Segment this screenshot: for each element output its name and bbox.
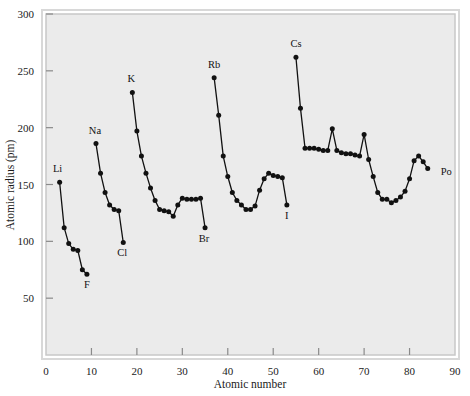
data-point <box>389 200 394 205</box>
data-point <box>180 196 185 201</box>
y-tick-label: 50 <box>23 292 35 304</box>
data-point <box>225 174 230 179</box>
data-point <box>330 126 335 131</box>
data-point <box>62 225 67 230</box>
data-point <box>157 207 162 212</box>
x-tick-label: 70 <box>359 365 371 377</box>
x-tick-label: 30 <box>177 365 189 377</box>
data-point <box>234 198 239 203</box>
data-point <box>171 214 176 219</box>
data-point <box>257 188 262 193</box>
data-point <box>425 166 430 171</box>
chart-canvas: 010203040506070809050100150200250300 LiF… <box>0 0 470 396</box>
x-tick-label: 0 <box>43 365 49 377</box>
data-point <box>316 147 321 152</box>
x-axis-title: Atomic number <box>214 378 287 390</box>
data-point <box>343 151 348 156</box>
data-point <box>98 171 103 176</box>
data-point <box>198 196 203 201</box>
data-point <box>312 146 317 151</box>
data-point <box>143 171 148 176</box>
data-point <box>166 209 171 214</box>
point-label-rb: Rb <box>208 59 220 70</box>
x-tick-label: 10 <box>86 365 98 377</box>
data-point <box>139 154 144 159</box>
data-point <box>293 55 298 60</box>
data-point <box>248 207 253 212</box>
data-point <box>403 189 408 194</box>
data-point <box>262 176 267 181</box>
y-tick-label: 300 <box>18 8 35 20</box>
plot-frame <box>42 10 459 359</box>
y-tick-label: 150 <box>18 179 35 191</box>
data-point <box>380 197 385 202</box>
data-point <box>148 185 153 190</box>
point-label-f: F <box>84 279 90 290</box>
data-point <box>221 154 226 159</box>
data-point <box>384 197 389 202</box>
data-point <box>284 202 289 207</box>
data-point <box>130 90 135 95</box>
point-label-cl: Cl <box>117 247 127 258</box>
data-point <box>212 75 217 80</box>
data-point <box>116 208 121 213</box>
data-point <box>230 190 235 195</box>
y-tick-label: 250 <box>18 65 35 77</box>
data-point <box>239 202 244 207</box>
data-point <box>203 225 208 230</box>
data-point <box>421 159 426 164</box>
data-point <box>253 204 258 209</box>
data-point <box>243 207 248 212</box>
data-point <box>303 146 308 151</box>
data-point <box>393 198 398 203</box>
y-tick-label: 100 <box>18 235 35 247</box>
data-point <box>112 207 117 212</box>
data-point <box>307 146 312 151</box>
data-point <box>371 174 376 179</box>
data-point <box>84 272 89 277</box>
x-tick-label: 20 <box>131 365 143 377</box>
data-point <box>362 132 367 137</box>
data-point <box>407 176 412 181</box>
data-point <box>153 198 158 203</box>
data-point <box>348 151 353 156</box>
data-point <box>321 148 326 153</box>
data-point <box>193 197 198 202</box>
x-tick-label: 50 <box>268 365 280 377</box>
data-point <box>189 197 194 202</box>
point-label-po: Po <box>441 166 452 177</box>
data-point <box>184 197 189 202</box>
data-point <box>107 202 112 207</box>
data-point <box>325 148 330 153</box>
data-point <box>357 154 362 159</box>
data-point <box>66 241 71 246</box>
point-label-br: Br <box>199 233 210 244</box>
data-point <box>366 157 371 162</box>
y-axis-title: Atomic radius (pm) <box>4 139 17 230</box>
point-label-na: Na <box>89 125 102 136</box>
data-point <box>271 173 276 178</box>
data-point <box>93 141 98 146</box>
data-point <box>134 129 139 134</box>
data-point <box>339 150 344 155</box>
data-point <box>80 267 85 272</box>
data-point <box>216 113 221 118</box>
data-point <box>266 171 271 176</box>
x-tick-label: 90 <box>450 365 462 377</box>
data-point <box>375 190 380 195</box>
data-point <box>162 208 167 213</box>
data-point <box>412 158 417 163</box>
point-label-i: I <box>285 210 289 221</box>
data-point <box>416 154 421 159</box>
data-point <box>57 180 62 185</box>
x-tick-label: 80 <box>404 365 416 377</box>
data-point <box>275 174 280 179</box>
data-point <box>75 248 80 253</box>
point-label-li: Li <box>53 163 62 174</box>
atomic-radius-chart: 010203040506070809050100150200250300 LiF… <box>0 0 470 396</box>
data-point <box>280 175 285 180</box>
y-tick-label: 200 <box>18 122 35 134</box>
data-point <box>121 240 126 245</box>
data-point <box>175 202 180 207</box>
data-point <box>334 148 339 153</box>
